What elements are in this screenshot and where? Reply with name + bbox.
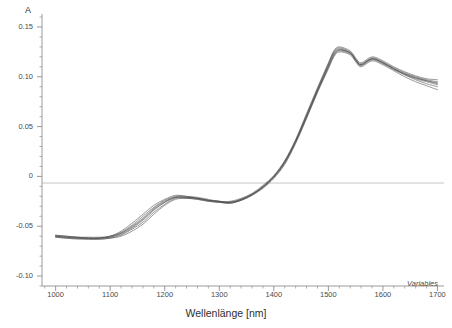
x-tick-label: 1100: [90, 290, 130, 299]
variables-annotation: Variables: [407, 279, 438, 288]
spectral-trace: [56, 51, 438, 239]
x-tick-label: 1300: [199, 290, 239, 299]
x-tick-label: 1600: [363, 290, 403, 299]
y-tick-label: 0: [3, 171, 33, 180]
y-tick-label: -0.10: [3, 271, 33, 280]
spectral-trace: [56, 48, 438, 238]
y-axis-major-ticks: [37, 27, 42, 276]
x-tick-label: 1200: [145, 290, 185, 299]
spectral-trace: [56, 50, 438, 238]
x-tick-label: 1700: [417, 290, 452, 299]
spectral-trace: [56, 47, 438, 237]
spectral-trace: [56, 49, 438, 238]
y-axis-title: A: [25, 5, 31, 15]
axes-group: [42, 14, 444, 286]
y-tick-label: 0.05: [3, 122, 33, 131]
y-tick-label: 0.15: [3, 22, 33, 31]
spectral-chart: A Wellenlänge [nm] Variables -0.10-0.050…: [0, 0, 452, 328]
y-tick-label: -0.05: [3, 221, 33, 230]
y-tick-label: 0.10: [3, 72, 33, 81]
x-tick-label: 1500: [308, 290, 348, 299]
x-axis-title: Wellenlänge [nm]: [0, 307, 452, 319]
spectral-trace: [56, 50, 438, 239]
spectral-traces: [56, 47, 438, 239]
plot-area: [0, 0, 452, 328]
x-tick-label: 1000: [36, 290, 76, 299]
spectral-trace: [56, 52, 438, 239]
x-tick-label: 1400: [254, 290, 294, 299]
